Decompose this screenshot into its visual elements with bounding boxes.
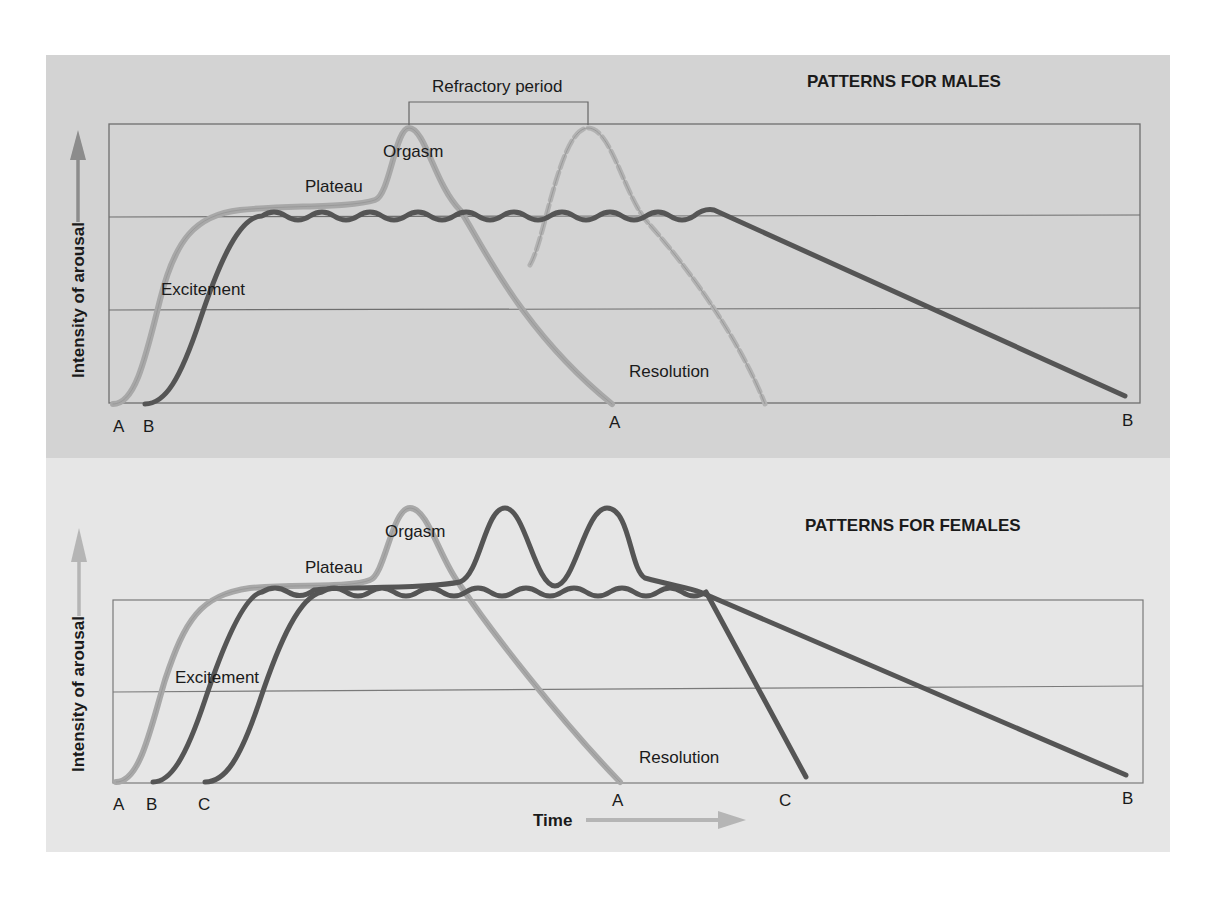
time-axis-arrow-icon	[586, 811, 746, 829]
females-label-resolution: Resolution	[639, 748, 719, 767]
females-y-axis-arrow-icon	[71, 528, 87, 616]
males-curve-a	[113, 128, 612, 404]
males-title: PATTERNS FOR MALES	[807, 72, 1001, 91]
females-marker-end-c: C	[779, 791, 791, 810]
females-marker-end-a: A	[612, 791, 624, 810]
males-y-axis-arrow-icon	[70, 130, 86, 222]
females-label-excitement: Excitement	[175, 668, 259, 687]
males-marker-start-a: A	[113, 417, 125, 436]
females-label-orgasm: Orgasm	[385, 522, 445, 541]
males-marker-end-b: B	[1122, 411, 1133, 430]
females-curve-b	[153, 508, 1126, 782]
males-label-excitement: Excitement	[161, 280, 245, 299]
refractory-period-bracket	[409, 102, 588, 125]
males-marker-start-b: B	[143, 417, 154, 436]
males-diagram: Intensity of arousal PATTERNS FOR MALES …	[69, 72, 1140, 436]
females-x-axis-label: Time	[533, 811, 572, 830]
females-marker-start-b: B	[146, 795, 157, 814]
males-plot-frame	[109, 124, 1140, 403]
sexual-response-cycle-figure: Intensity of arousal PATTERNS FOR MALES …	[0, 0, 1223, 897]
females-y-axis-label: Intensity of arousal	[69, 616, 88, 772]
females-title: PATTERNS FOR FEMALES	[805, 516, 1021, 535]
females-marker-start-c: C	[198, 795, 210, 814]
females-diagram: Intensity of arousal PATTERNS FOR FEMALE…	[69, 508, 1143, 830]
females-marker-start-a: A	[113, 795, 125, 814]
males-label-resolution: Resolution	[629, 362, 709, 381]
males-label-plateau: Plateau	[305, 177, 363, 196]
females-marker-end-b: B	[1122, 789, 1133, 808]
males-marker-end-a: A	[609, 413, 621, 432]
males-label-orgasm: Orgasm	[383, 142, 443, 161]
females-label-plateau: Plateau	[305, 558, 363, 577]
females-gridline	[113, 686, 1143, 692]
refractory-period-label: Refractory period	[432, 77, 562, 96]
males-gridline-lower	[109, 308, 1140, 310]
males-y-axis-label: Intensity of arousal	[69, 222, 88, 378]
